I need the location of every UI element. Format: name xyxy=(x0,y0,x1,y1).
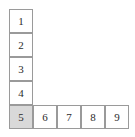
grid-cell-4[interactable]: 4 xyxy=(9,81,33,105)
grid-cell-8[interactable]: 8 xyxy=(81,105,105,129)
grid-cell-1[interactable]: 1 xyxy=(9,9,33,33)
grid-cell-8-label: 8 xyxy=(90,112,96,123)
grid-cell-6[interactable]: 6 xyxy=(33,105,57,129)
grid-cell-3-label: 3 xyxy=(18,64,24,75)
grid-cell-1-label: 1 xyxy=(18,16,24,27)
grid-cell-2-label: 2 xyxy=(18,40,24,51)
grid-cell-7[interactable]: 7 xyxy=(57,105,81,129)
l-shaped-numbered-grid: 1 2 3 4 5 6 7 8 9 xyxy=(0,0,135,137)
grid-cell-6-label: 6 xyxy=(42,112,48,123)
grid-cell-9[interactable]: 9 xyxy=(105,105,129,129)
grid-cell-2[interactable]: 2 xyxy=(9,33,33,57)
grid-cell-5[interactable]: 5 xyxy=(9,105,33,129)
grid-cell-3[interactable]: 3 xyxy=(9,57,33,81)
grid-cell-7-label: 7 xyxy=(66,112,72,123)
grid-cell-9-label: 9 xyxy=(114,112,120,123)
grid-cell-5-label: 5 xyxy=(18,112,24,123)
grid-cell-4-label: 4 xyxy=(18,88,24,99)
